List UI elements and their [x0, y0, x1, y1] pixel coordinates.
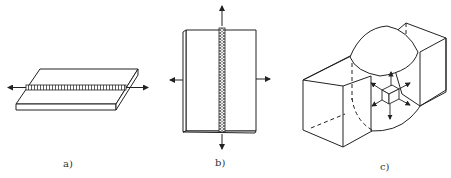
panel-b: [170, 6, 270, 149]
panel-a-label: a): [63, 158, 73, 169]
weld-front-curve: [371, 76, 420, 131]
arrow-front-icon: [372, 100, 382, 106]
plate-front-face: [16, 104, 116, 110]
weld-dome-top: [350, 26, 418, 76]
left-block-top-right-edge: [343, 76, 371, 86]
weld-bead: [219, 28, 225, 132]
arrow-back-icon: [399, 83, 410, 89]
left-block-front: [303, 80, 343, 147]
panel-a: [8, 69, 148, 110]
plate-side-face: [183, 30, 186, 132]
arrow-left-icon: [371, 83, 382, 90]
panel-b-label: b): [215, 157, 225, 168]
panel-c: [303, 23, 446, 147]
arrow-right-icon: [399, 99, 410, 105]
weld-bead: [26, 85, 126, 90]
welding-stress-diagram: a) b): [0, 0, 451, 178]
panel-c-label: c): [380, 161, 390, 172]
